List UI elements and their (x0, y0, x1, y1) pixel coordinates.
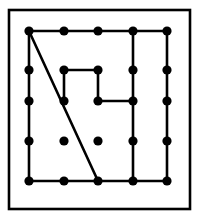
peg-dot-r4-c3 (93, 136, 102, 145)
peg-dot-r2-c3 (93, 65, 102, 74)
peg-dot-r5-c2 (59, 176, 68, 185)
peg-dot-r5-c5 (162, 176, 171, 185)
peg-dot-r2-c5 (162, 65, 171, 74)
peg-dot-r4-c2 (59, 136, 68, 145)
peg-dot-r5-c1 (24, 176, 33, 185)
peg-dot-r1-c2 (59, 26, 68, 35)
peg-dot-r5-c4 (128, 176, 137, 185)
peg-dot-r2-c1 (24, 65, 33, 74)
peg-dot-r2-c2 (59, 65, 68, 74)
peg-dot-r1-c3 (93, 26, 102, 35)
peg-dot-r1-c5 (162, 26, 171, 35)
peg-dot-r1-c1 (24, 26, 33, 35)
peg-dot-r3-c4 (128, 96, 137, 105)
peg-dot-r2-c4 (128, 65, 137, 74)
peg-dot-r5-c3 (93, 176, 102, 185)
peg-dot-r3-c5 (162, 96, 171, 105)
geoboard-canvas (0, 0, 199, 219)
geoboard-figure (0, 0, 199, 219)
peg-dot-r4-c4 (128, 136, 137, 145)
peg-dot-r3-c2 (59, 96, 68, 105)
peg-dot-r3-c1 (24, 96, 33, 105)
peg-dot-r3-c3 (93, 96, 102, 105)
peg-dot-r4-c1 (24, 136, 33, 145)
peg-dot-r4-c5 (162, 136, 171, 145)
peg-dot-r1-c4 (128, 26, 137, 35)
